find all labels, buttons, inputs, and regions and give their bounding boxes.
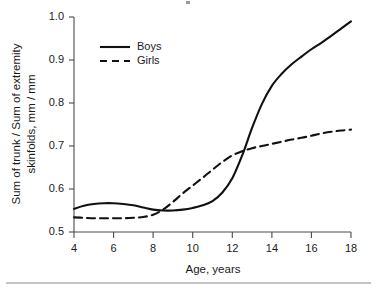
y-axis-title-line2: skinfolds, mm / mm [25,74,37,173]
series-line-boys [74,21,351,210]
x-tick-label: 18 [345,242,357,254]
y-tick-label: 0.7 [49,139,64,151]
figure-container: 1.0 0.9 0.8 0.7 0.6 0.5 4 6 8 10 12 14 1… [0,0,377,291]
scan-artifact-speck [186,1,190,4]
axes-group [74,17,351,232]
x-tick-label: 10 [187,242,199,254]
x-axis-ticks: 4 6 8 10 12 14 16 18 [71,232,357,254]
y-axis-ticks: 1.0 0.9 0.8 0.7 0.6 0.5 [49,10,74,237]
y-tick-label: 1.0 [49,10,64,22]
x-tick-label: 12 [226,242,238,254]
x-tick-label: 16 [305,242,317,254]
legend-label-girls: Girls [137,54,160,66]
y-axis-title-line1: Sum of trunk / Sum of extremity [10,43,22,204]
x-tick-label: 14 [266,242,278,254]
y-tick-label: 0.9 [49,53,64,65]
y-tick-label: 0.5 [49,225,64,237]
chart-legend: Boys Girls [100,40,162,66]
series-line-girls [74,130,351,219]
y-axis-title: Sum of trunk / Sum of extremity skinfold… [10,43,37,204]
x-tick-label: 4 [71,242,77,254]
legend-label-boys: Boys [137,40,162,52]
x-axis-title: Age, years [186,263,241,275]
line-chart: 1.0 0.9 0.8 0.7 0.6 0.5 4 6 8 10 12 14 1… [0,0,377,291]
y-tick-label: 0.6 [49,182,64,194]
y-tick-label: 0.8 [49,96,64,108]
series-group [74,21,351,218]
x-tick-label: 8 [150,242,156,254]
x-tick-label: 6 [111,242,117,254]
